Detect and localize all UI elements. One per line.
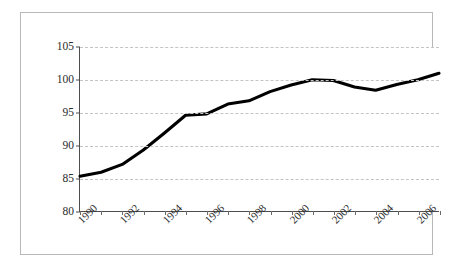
x-axis-tick-mark — [144, 211, 145, 215]
y-axis-tick-mark — [76, 47, 80, 48]
y-axis-tick-mark — [76, 146, 80, 147]
line-series-svg — [80, 47, 439, 211]
x-axis-tick-mark — [440, 211, 441, 215]
chart-outer-border: 1051009590858019901992199419961998200020… — [20, 12, 433, 255]
y-gridline — [80, 113, 439, 114]
plot-area: 1051009590858019901992199419961998200020… — [79, 47, 439, 212]
x-axis-tick-mark — [355, 211, 356, 215]
y-axis-tick-label: 100 — [57, 74, 74, 86]
y-gridline — [80, 47, 439, 48]
y-axis-tick-label: 95 — [63, 107, 75, 119]
y-axis-tick-label: 105 — [57, 41, 74, 53]
y-axis-tick-label: 90 — [63, 140, 75, 152]
x-axis-tick-mark — [313, 211, 314, 215]
x-axis-tick-mark — [101, 211, 102, 215]
chart-figure: 1051009590858019901992199419961998200020… — [0, 0, 455, 268]
line-series-index — [80, 73, 439, 176]
x-axis-tick-mark — [398, 211, 399, 215]
y-axis-tick-label: 85 — [63, 173, 75, 185]
y-gridline — [80, 179, 439, 180]
y-axis-tick-mark — [76, 113, 80, 114]
y-axis-tick-label: 80 — [63, 206, 75, 218]
y-axis-tick-mark — [76, 179, 80, 180]
y-gridline — [80, 146, 439, 147]
y-axis-tick-mark — [76, 80, 80, 81]
x-axis-tick-mark — [186, 211, 187, 215]
y-gridline — [80, 80, 439, 81]
x-axis-tick-mark — [228, 211, 229, 215]
x-axis-tick-mark — [271, 211, 272, 215]
